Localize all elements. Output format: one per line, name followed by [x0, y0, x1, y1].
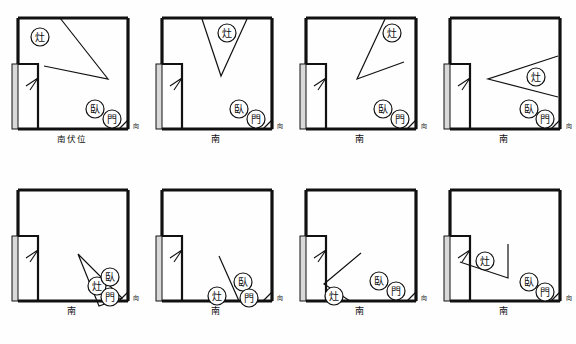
balcony-partition	[450, 64, 470, 129]
stove-label: 灶	[329, 290, 339, 302]
floorplan-panel[interactable]: 灶 臥 門 向 南	[144, 0, 288, 172]
bed-label: 臥	[90, 104, 100, 115]
floorplan-panel[interactable]: 灶 臥 門 向 南	[432, 172, 576, 344]
stove-label: 灶	[531, 71, 541, 83]
stove-marker[interactable]: 灶	[31, 28, 49, 46]
bed-label: 臥	[374, 276, 384, 287]
bed-marker[interactable]: 臥	[520, 273, 538, 291]
panel-grid: 灶 臥 門 向 南伏位	[0, 0, 576, 344]
stove-label: 灶	[480, 255, 490, 267]
door-label: 門	[395, 114, 405, 125]
panel-7-plan: 灶 臥 門 向	[288, 172, 432, 344]
balcony-slab	[444, 236, 450, 301]
balcony-door-swing	[26, 78, 38, 90]
panel-caption: 南	[144, 305, 288, 317]
floorplan-panel[interactable]: 灶 臥 門 向 南伏位	[0, 0, 144, 172]
panel-caption: 南	[0, 305, 144, 317]
door-marker[interactable]: 門	[536, 110, 554, 128]
panel-3-plan: 灶 臥 門 向	[288, 0, 432, 172]
stove-marker[interactable]: 灶	[476, 252, 494, 270]
bed-label: 臥	[524, 104, 534, 115]
door-label: 門	[105, 292, 115, 303]
balcony-door-swing	[314, 250, 326, 262]
door-label: 門	[540, 287, 550, 298]
floorplan-panel[interactable]: 灶 臥 門 向 南	[288, 0, 432, 172]
panel-caption: 南伏位	[0, 133, 144, 145]
balcony-slab	[156, 236, 162, 301]
balcony-partition	[18, 64, 38, 129]
floorplan-panel[interactable]: 灶 臥 門 向 南	[0, 172, 144, 344]
floorplan-sheet: 灶 臥 門 向 南伏位	[0, 0, 576, 344]
panel-5-plan: 灶 臥 門 向	[0, 172, 144, 344]
stove-marker[interactable]: 灶	[527, 68, 545, 86]
balcony-door-swing	[458, 250, 470, 262]
floorplan-panel[interactable]: 灶 臥 門 向 南	[288, 172, 432, 344]
balcony-slab	[300, 64, 306, 129]
bed-marker[interactable]: 臥	[520, 100, 538, 118]
bed-label: 臥	[105, 272, 115, 283]
door-label: 門	[107, 114, 117, 125]
door-label: 門	[391, 286, 401, 297]
panel-8-plan: 灶 臥 門 向	[432, 172, 576, 344]
door-marker[interactable]: 門	[391, 110, 409, 128]
stove-marker[interactable]: 灶	[218, 24, 236, 42]
stove-label: 灶	[35, 31, 45, 43]
balcony-partition	[162, 236, 182, 301]
panel-6-plan: 灶 臥 門 向	[144, 172, 288, 344]
bed-label: 臥	[238, 277, 248, 288]
bed-marker[interactable]: 臥	[230, 100, 248, 118]
qi-fan-triangle	[44, 18, 108, 79]
door-marker[interactable]: 門	[103, 110, 121, 128]
balcony-partition	[450, 236, 470, 301]
qi-fan-triangle	[488, 56, 558, 97]
direction-marker-icon: 向	[421, 122, 427, 129]
direction-marker-icon: 向	[133, 122, 139, 129]
balcony-slab	[12, 236, 18, 301]
bed-marker[interactable]: 臥	[370, 272, 388, 290]
direction-marker-icon: 向	[566, 122, 572, 129]
bed-marker[interactable]: 臥	[234, 273, 252, 291]
door-marker[interactable]: 門	[247, 110, 265, 128]
direction-marker-icon: 向	[421, 294, 427, 301]
floorplan-panel[interactable]: 灶 臥 門 向 南	[144, 172, 288, 344]
balcony-partition	[18, 236, 38, 301]
panel-1-plan: 灶 臥 門 向	[0, 0, 144, 172]
door-marker[interactable]: 門	[387, 282, 405, 300]
balcony-slab	[444, 64, 450, 129]
panel-caption: 南	[432, 133, 576, 145]
direction-marker-icon: 向	[277, 294, 283, 301]
floorplan-panel[interactable]: 灶 臥 門 向 南	[432, 0, 576, 172]
balcony-slab	[300, 236, 306, 301]
direction-marker-icon: 向	[277, 122, 283, 129]
panel-caption: 南	[288, 305, 432, 317]
direction-marker-icon: 向	[133, 294, 139, 301]
stove-label: 灶	[212, 290, 222, 302]
door-label: 門	[251, 114, 261, 125]
stove-label: 灶	[92, 280, 102, 292]
bed-label: 臥	[524, 277, 534, 288]
bed-marker[interactable]: 臥	[374, 100, 392, 118]
balcony-slab	[12, 64, 18, 129]
stove-marker[interactable]: 灶	[208, 287, 226, 305]
bed-marker[interactable]: 臥	[86, 100, 104, 118]
panel-caption: 南	[288, 133, 432, 145]
stove-label: 灶	[387, 27, 397, 39]
bed-marker[interactable]: 臥	[101, 268, 119, 286]
bed-label: 臥	[378, 104, 388, 115]
door-label: 門	[540, 114, 550, 125]
panel-2-plan: 灶 臥 門 向	[144, 0, 288, 172]
door-marker[interactable]: 門	[101, 288, 119, 306]
balcony-partition	[306, 64, 326, 129]
balcony-door-swing	[170, 250, 182, 262]
balcony-door-swing	[26, 250, 38, 262]
door-label: 門	[244, 293, 254, 304]
panel-4-plan: 灶 臥 門 向	[432, 0, 576, 172]
balcony-door-swing	[458, 78, 470, 90]
panel-caption: 南	[432, 305, 576, 317]
stove-marker[interactable]: 灶	[383, 24, 401, 42]
balcony-partition	[306, 236, 326, 301]
balcony-slab	[156, 64, 162, 129]
balcony-partition	[162, 64, 182, 129]
door-marker[interactable]: 門	[536, 283, 554, 301]
stove-marker[interactable]: 灶	[325, 287, 343, 305]
